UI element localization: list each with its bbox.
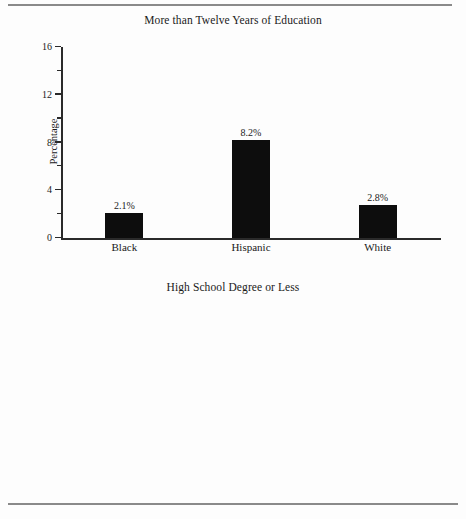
- bar: 2.8%: [359, 205, 397, 238]
- plot-area: Percentage 0481216 2.1%Black8.2%Hispanic…: [61, 47, 441, 238]
- category-label: Black: [111, 242, 137, 253]
- bar-value-label: 2.1%: [114, 201, 135, 211]
- bar-slot: 2.1%Black: [61, 47, 188, 238]
- x-axis-line: [61, 238, 441, 240]
- figure-page: More than Twelve Years of Education Perc…: [0, 0, 466, 519]
- y-tick-label: 8: [47, 138, 52, 148]
- bar-value-label: 8.2%: [241, 128, 262, 138]
- bar-value-label: 2.8%: [367, 193, 388, 203]
- category-label: White: [364, 242, 391, 253]
- bar-slot: 8.2%Hispanic: [188, 47, 315, 238]
- bar: 8.2%: [232, 140, 270, 238]
- bar-slot: 2.8%White: [314, 47, 441, 238]
- category-label: Hispanic: [231, 242, 270, 253]
- bar: 2.1%: [105, 213, 143, 238]
- chart-title: More than Twelve Years of Education: [0, 14, 466, 26]
- chart-title: High School Degree or Less: [0, 281, 466, 293]
- bottom-divider-rule: [8, 503, 458, 505]
- y-tick-label: 0: [47, 233, 52, 243]
- y-tick-label: 16: [42, 42, 52, 52]
- chart-high-school-degree-or-less: High School Degree or Less Percentage 04…: [0, 260, 466, 503]
- y-tick-label: 12: [42, 90, 52, 100]
- y-tick-label: 4: [47, 185, 52, 195]
- chart-more-than-twelve-years: More than Twelve Years of Education Perc…: [0, 0, 466, 260]
